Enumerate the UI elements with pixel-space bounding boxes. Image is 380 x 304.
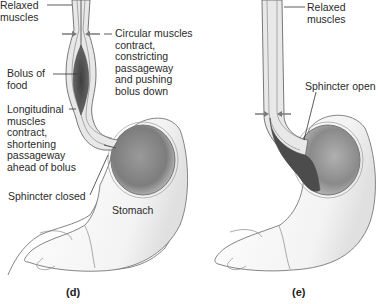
caption-e: (e)	[292, 286, 305, 298]
label-circular-muscles-d: Circular muscles contract, constricting …	[115, 28, 193, 97]
label-sphincter-open: Sphincter open	[305, 81, 376, 93]
label-stomach: Stomach	[112, 205, 153, 217]
label-bolus-of-food: Bolus of food	[7, 68, 45, 91]
caption-d: (d)	[66, 286, 80, 298]
label-relaxed-muscles-d: Relaxed muscles	[0, 0, 39, 23]
label-sphincter-closed: Sphincter closed	[8, 191, 86, 203]
stomach-lining-d	[111, 125, 175, 195]
label-relaxed-muscles-e: Relaxed muscles	[307, 2, 346, 25]
panel-e-illustration	[215, 0, 376, 271]
leader-lines-e	[284, 7, 316, 140]
label-longitudinal-muscles: Longitudinal muscles contract, shortenin…	[7, 104, 76, 173]
esophagus-e	[262, 0, 308, 158]
